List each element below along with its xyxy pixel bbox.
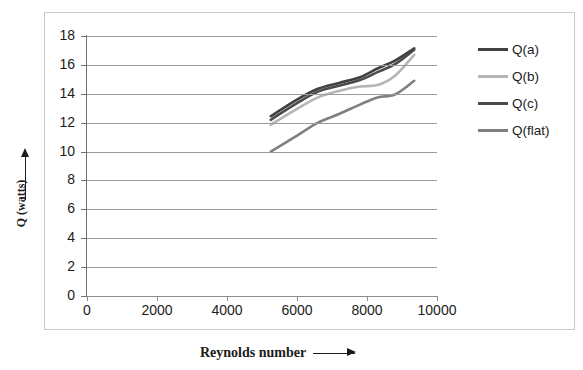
legend-item-qb[interactable]: Q(b) — [478, 63, 573, 90]
gridline-y-2 — [87, 267, 437, 268]
y-tick-label-4: 4 — [35, 230, 75, 244]
legend-item-qflat[interactable]: Q(flat) — [478, 117, 573, 144]
y-tick-label-0: 0 — [35, 288, 75, 302]
series-line-qflat — [271, 81, 415, 152]
legend-label: Q(a) — [512, 42, 539, 57]
y-tick-label-8: 8 — [35, 172, 75, 186]
x-tick-label-8000: 8000 — [337, 303, 397, 317]
gridline-y-6 — [87, 209, 437, 210]
y-tick-label-2: 2 — [35, 259, 75, 273]
x-axis-arrow-icon — [313, 353, 355, 354]
plot-area — [87, 36, 437, 296]
y-tick-label-6: 6 — [35, 201, 75, 215]
x-axis-title-group: Reynolds number — [200, 344, 355, 362]
legend-swatch-icon — [478, 102, 508, 105]
legend-item-qa[interactable]: Q(a) — [478, 36, 573, 63]
gridline-y-10 — [87, 152, 437, 153]
gridline-y-18 — [87, 36, 437, 37]
legend-swatch-icon — [478, 48, 508, 51]
gridline-y-4 — [87, 238, 437, 239]
gridline-y-16 — [87, 65, 437, 66]
legend-item-qc[interactable]: Q(c) — [478, 90, 573, 117]
series-lines — [87, 36, 437, 296]
legend-swatch-icon — [478, 129, 508, 132]
chart-legend: Q(a)Q(b)Q(c)Q(flat) — [478, 36, 573, 144]
y-tick-label-18: 18 — [35, 28, 75, 42]
y-tick-label-16: 16 — [35, 57, 75, 71]
y-axis-title-group: Q (watts) — [4, 150, 38, 270]
x-tick-label-10000: 10000 — [407, 303, 467, 317]
gridline-y-14 — [87, 94, 437, 95]
y-tick-label-12: 12 — [35, 115, 75, 129]
x-tick-label-0: 0 — [57, 303, 117, 317]
x-axis-title: Reynolds number — [200, 345, 306, 361]
series-line-qc — [271, 50, 415, 120]
y-tick-label-10: 10 — [35, 144, 75, 158]
x-tick-label-2000: 2000 — [127, 303, 187, 317]
x-tick-label-6000: 6000 — [267, 303, 327, 317]
x-tick-10000 — [437, 296, 438, 301]
legend-swatch-icon — [478, 75, 508, 78]
y-tick-label-14: 14 — [35, 86, 75, 100]
legend-label: Q(c) — [512, 96, 538, 111]
legend-label: Q(b) — [512, 69, 539, 84]
gridline-y-8 — [87, 180, 437, 181]
x-tick-label-4000: 4000 — [197, 303, 257, 317]
gridline-y-12 — [87, 123, 437, 124]
gridline-y-0 — [87, 296, 437, 297]
chart-figure: Q (watts) 024681012141618 02000400060008… — [0, 0, 583, 370]
y-axis-title: Q (watts) — [14, 159, 29, 249]
legend-label: Q(flat) — [512, 123, 550, 138]
